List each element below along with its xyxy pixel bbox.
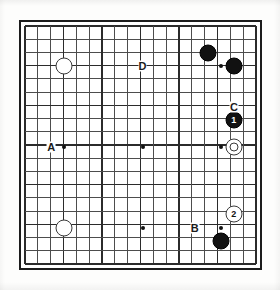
go-board[interactable]: 12 ABCD [19,20,262,270]
stone-white-marked-right[interactable] [225,139,242,156]
stone-black-upper-right-hoshi[interactable] [225,58,242,75]
hoshi-point [219,226,223,230]
hoshi-point [219,64,223,68]
hoshi-point [141,226,145,230]
hoshi-point [219,145,223,149]
stone-white-move-2[interactable]: 2 [225,206,242,223]
go-board-figure: 12 ABCD [0,0,280,290]
stone-move-number: 2 [231,210,236,219]
stone-white-lower-left-hoshi[interactable] [56,219,73,236]
stone-black-move-1[interactable]: 1 [225,112,242,129]
point-label-a: A [47,142,56,153]
stone-black-upper-right-a[interactable] [199,45,216,62]
point-label-c: C [229,101,238,112]
hoshi-point [62,145,66,149]
point-label-b: B [190,222,199,233]
stone-black-lower-right[interactable] [212,232,229,249]
point-label-d: D [138,61,147,72]
hoshi-point [141,145,145,149]
stone-move-number: 1 [231,116,236,125]
stone-white-upper-left-hoshi[interactable] [56,58,73,75]
